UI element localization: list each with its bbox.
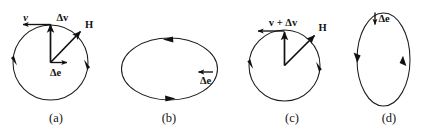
panel-b-orbit-direction-arrowheads [163,36,176,101]
panel-b: Δe (b) [122,36,218,125]
panel-c-field-label: H [319,22,327,33]
panel-a-field-vector [51,32,81,63]
panel-a-caption: (a) [49,111,63,125]
figure-canvas: v Δv H Δe (a) Δe (b) [0,0,435,138]
panel-d-orbit-direction-arrowheads [354,53,407,67]
panel-d: Δe (d) [354,13,410,126]
panel-a-velocity-label: v [23,12,28,23]
panel-c-velocity-sum-label: v + Δv [269,17,298,28]
panel-a-delta-e-label: Δe [50,67,62,78]
panel-c-field-vector [285,36,315,66]
panel-b-orbit-ellipse [122,38,218,100]
panel-c-caption: (c) [285,111,299,125]
panel-a: v Δv H Δe (a) [11,12,93,126]
panel-b-delta-e-label: Δe [200,75,212,86]
panel-a-delta-v-label: Δv [57,12,70,23]
panel-c: v + Δv H (c) [247,17,326,125]
physics-figure: v Δv H Δe (a) Δe (b) [0,0,435,138]
panel-d-delta-e-label: Δe [379,13,391,24]
panel-b-caption: (b) [162,111,177,125]
panel-d-caption: (d) [382,111,397,125]
panel-a-field-label: H [85,19,93,30]
